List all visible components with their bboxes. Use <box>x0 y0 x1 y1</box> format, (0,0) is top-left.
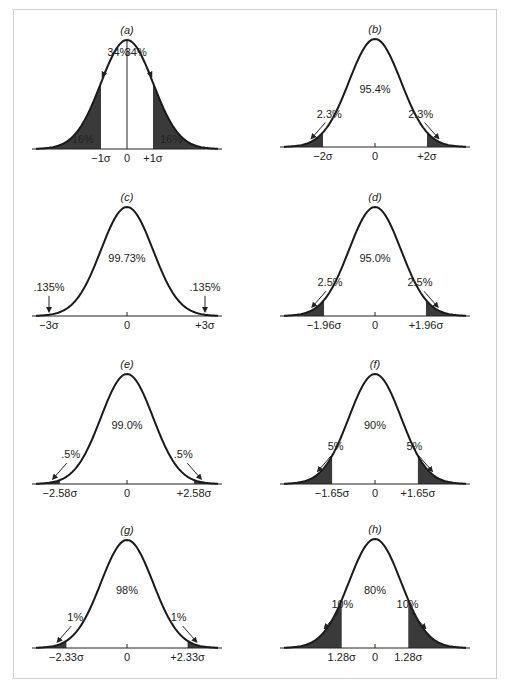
tick-label-right: +2.58σ <box>177 487 212 499</box>
center-percent-label: 95.4% <box>359 83 390 95</box>
tick-label-right: +1.65σ <box>401 487 436 499</box>
tick-label-right: +1σ <box>143 152 163 164</box>
panel-b: (b)−2σ0+2σ95.4%2.3%2.3% <box>280 23 470 162</box>
center-percent-label: 98% <box>116 584 138 596</box>
panel-title: (b) <box>368 23 382 35</box>
center-percent-label: 95.0% <box>359 252 390 264</box>
panel-title: (h) <box>368 523 382 535</box>
tick-label-left: −1.65σ <box>315 487 350 499</box>
tick-label-left: −1.96σ <box>307 319 342 331</box>
panel-e: (e)−2.58σ0+2.58σ99.0%.5%.5% <box>32 358 222 499</box>
center-percent-label: 90% <box>364 419 386 431</box>
tick-label-mean: 0 <box>372 150 378 162</box>
left-tail-arrow <box>102 61 110 77</box>
panel-f: (f)−1.65σ0+1.65σ90%5%5% <box>280 358 470 499</box>
panel-a: (a)−1σ0+1σ16%16%34%34% <box>32 24 222 164</box>
panel-d: (d)−1.96σ0+1.96σ95.0%2.5%2.5% <box>280 191 470 331</box>
left-tail-label: 2.5% <box>317 276 342 288</box>
right-tail-label: 2.3% <box>408 108 433 120</box>
center-percent-label: 80% <box>364 584 386 596</box>
right-tail-label: 10% <box>397 598 419 610</box>
right-tail-label: 34% <box>125 46 147 58</box>
right-tail-label: 1% <box>171 611 187 623</box>
tick-label-right: +3σ <box>195 319 215 331</box>
tick-label-left: −2.58σ <box>43 487 78 499</box>
left-tail-label: 1% <box>67 611 83 623</box>
right-tail-label: 5% <box>406 440 422 452</box>
left-tail-label: 5% <box>328 440 344 452</box>
left-tail-label: 10% <box>331 598 353 610</box>
center-percent-label: 99.0% <box>111 419 142 431</box>
tick-label-mean: 0 <box>124 487 130 499</box>
panel-title: (c) <box>121 191 134 203</box>
left-tail-label: 2.3% <box>317 108 342 120</box>
right-tail-label: 2.5% <box>407 276 432 288</box>
tick-label-left: −3σ <box>39 319 59 331</box>
left-tail-label: .135% <box>33 281 64 293</box>
normal-distribution-figure: (a)−1σ0+1σ16%16%34%34%(b)−2σ0+2σ95.4%2.3… <box>0 0 505 688</box>
center-percent-label: 99.73% <box>108 252 146 264</box>
panel-c: (c)−3σ0+3σ99.73%.135%.135% <box>32 191 222 331</box>
tick-label-left: 1.28σ <box>328 651 356 663</box>
right-tail-arrow <box>144 61 152 77</box>
tick-label-right: 1.28σ <box>394 651 422 663</box>
panel-h: (h)1.28σ01.28σ80%10%10% <box>280 523 470 663</box>
right-tail-label: .135% <box>189 281 220 293</box>
left-tail-label: .5% <box>61 448 80 460</box>
right-tail-inner-label: 16% <box>160 133 182 145</box>
tick-label-left: −2.33σ <box>49 651 84 663</box>
tick-label-mean: 0 <box>372 651 378 663</box>
panel-title: (f) <box>370 358 381 370</box>
right-tail-label: .5% <box>174 448 193 460</box>
tick-label-left: −1σ <box>91 152 111 164</box>
panel-title: (e) <box>120 358 134 370</box>
tick-label-left: −2σ <box>313 150 333 162</box>
panel-title: (g) <box>120 524 134 536</box>
tick-label-right: +2.33σ <box>170 651 205 663</box>
tick-label-mean: 0 <box>124 152 130 164</box>
tick-label-mean: 0 <box>372 319 378 331</box>
panel-title: (a) <box>120 24 134 36</box>
left-tail-inner-label: 16% <box>72 133 94 145</box>
tick-label-mean: 0 <box>124 651 130 663</box>
tick-label-right: +2σ <box>417 150 437 162</box>
tick-label-mean: 0 <box>372 487 378 499</box>
panel-g: (g)−2.33σ0+2.33σ98%1%1% <box>32 524 222 663</box>
panel-title: (d) <box>368 191 382 203</box>
tick-label-mean: 0 <box>124 319 130 331</box>
tick-label-right: +1.96σ <box>409 319 444 331</box>
